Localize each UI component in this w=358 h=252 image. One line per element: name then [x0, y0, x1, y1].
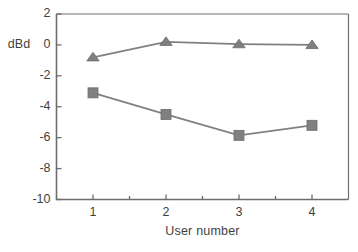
x-tick-label: 1	[73, 205, 113, 219]
x-tick-label: 2	[146, 205, 186, 219]
y-tick-label: -6	[39, 130, 50, 144]
series-line-square	[93, 93, 312, 136]
axis-spines	[57, 14, 349, 200]
y-tick-label: 0	[44, 37, 51, 51]
marker-square	[88, 88, 98, 98]
y-tick-label: -4	[39, 99, 50, 113]
axis-lines	[57, 14, 349, 200]
x-tick-label: 3	[219, 205, 259, 219]
y-axis-label: dBd	[8, 37, 31, 51]
chart-figure: dBd User number 20-2-4-6-8-10 1234	[0, 0, 358, 252]
series-line-triangle	[93, 42, 312, 57]
y-tick-label: -10	[32, 192, 50, 206]
marker-square	[161, 109, 171, 119]
x-tick-label: 4	[292, 205, 332, 219]
y-tick-label: -2	[39, 68, 50, 82]
data-series	[87, 37, 318, 141]
marker-square	[307, 120, 317, 130]
x-axis-label: User number	[57, 224, 349, 238]
y-tick-label: -8	[39, 161, 50, 175]
marker-square	[234, 130, 244, 140]
y-tick-label: 2	[44, 6, 51, 20]
